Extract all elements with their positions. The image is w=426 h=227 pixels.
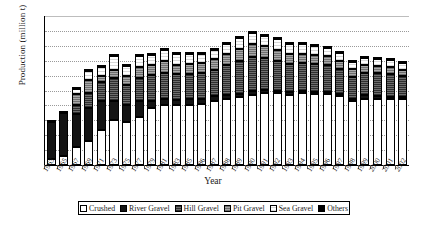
legend-item[interactable]: Hill Gravel: [175, 204, 219, 213]
stacked-bar[interactable]: [109, 54, 118, 165]
stacked-bar[interactable]: [147, 53, 156, 165]
stacked-bar[interactable]: [172, 52, 181, 165]
stacked-bar[interactable]: [398, 61, 407, 165]
bar-segment: [59, 113, 68, 155]
bar-segment: [235, 38, 244, 48]
bar-segment: [386, 74, 395, 97]
bar-segment: [323, 48, 332, 57]
bar-segment: [222, 44, 231, 54]
stacked-bar[interactable]: [197, 52, 206, 165]
legend-label: Others: [327, 204, 348, 213]
legend-label: Hill Gravel: [184, 204, 219, 213]
legend-item[interactable]: River Gravel: [120, 204, 170, 213]
stacked-bar[interactable]: [97, 65, 106, 165]
stacked-bar[interactable]: [122, 64, 131, 165]
bar-segment: [84, 108, 93, 142]
bar-segment: [147, 108, 156, 165]
stacked-bar[interactable]: [72, 87, 81, 165]
y-axis-title: Production (million t): [17, 0, 27, 121]
bar-segment: [260, 58, 269, 90]
bar-slot: [208, 16, 221, 165]
stacked-bar[interactable]: [335, 51, 344, 165]
stacked-bar[interactable]: [135, 54, 144, 166]
legend-item[interactable]: Others: [318, 204, 348, 213]
stacked-bar[interactable]: [386, 58, 395, 165]
bar-segment: [386, 99, 395, 165]
bar-segment: [197, 63, 206, 73]
legend-swatch-icon: [318, 205, 325, 212]
bar-segment: [360, 65, 369, 72]
bar-segment: [122, 76, 131, 85]
bar-segment: [298, 63, 307, 91]
legend-item[interactable]: Pit Gravel: [224, 204, 265, 213]
bar-slot: [120, 16, 133, 165]
bar-slot: [334, 16, 347, 165]
stacked-bar[interactable]: [222, 42, 231, 165]
stacked-bar[interactable]: [248, 31, 257, 165]
bar-slot: [258, 16, 271, 165]
stacked-bar[interactable]: [260, 34, 269, 165]
bar-segment: [273, 39, 282, 49]
stacked-bar[interactable]: [285, 42, 294, 165]
bar-segment: [135, 78, 144, 101]
bar-segment: [97, 101, 106, 130]
bar-segment: [335, 61, 344, 69]
bar-slot: [196, 16, 209, 165]
bar-slot: [359, 16, 372, 165]
stacked-bar[interactable]: [373, 57, 382, 165]
bar-segment: [248, 95, 257, 165]
stacked-bar[interactable]: [235, 36, 244, 165]
legend-item[interactable]: Sea Gravel: [270, 204, 313, 213]
bar-segment: [210, 70, 219, 97]
plot-area: [44, 16, 409, 166]
bar-segment: [273, 61, 282, 91]
bar-segment: [122, 85, 131, 104]
bar-segment: [160, 73, 169, 100]
bar-segment: [310, 94, 319, 165]
bar-segment: [248, 44, 257, 57]
stacked-bar[interactable]: [84, 69, 93, 165]
bar-segment: [398, 99, 407, 165]
stacked-bar[interactable]: [273, 37, 282, 165]
stacked-bar[interactable]: [323, 46, 332, 165]
stacked-bar[interactable]: [210, 48, 219, 165]
stacked-bar[interactable]: [348, 60, 357, 165]
bar-segment: [373, 66, 382, 73]
bar-segment: [260, 93, 269, 165]
bar-segment: [97, 82, 106, 101]
stacked-bar[interactable]: [298, 42, 307, 165]
bar-segment: [197, 73, 206, 99]
legend-item[interactable]: Crushed: [80, 204, 115, 213]
bar-segment: [360, 73, 369, 95]
stacked-bar[interactable]: [360, 56, 369, 165]
bar-slot: [283, 16, 296, 165]
bar-segment: [97, 67, 106, 76]
bar-segment: [160, 50, 169, 61]
bar-segment: [260, 36, 269, 46]
bar-segment: [172, 105, 181, 165]
bar-segment: [235, 97, 244, 165]
stacked-bar[interactable]: [160, 48, 169, 165]
bar-slot: [233, 16, 246, 165]
bar-segment: [84, 80, 93, 93]
bar-segment: [360, 99, 369, 165]
bar-segment: [210, 59, 219, 69]
stacked-bar[interactable]: [185, 52, 194, 165]
bar-slot: [346, 16, 359, 165]
legend-label: River Gravel: [129, 204, 170, 213]
legend-swatch-icon: [175, 205, 182, 212]
bar-slot: [308, 16, 321, 165]
bar-segment: [373, 59, 382, 66]
bar-segment: [248, 33, 257, 44]
bar-segment: [248, 57, 257, 91]
bar-segment: [72, 114, 81, 147]
bar-segment: [109, 56, 118, 70]
bar-segment: [147, 101, 156, 108]
bar-slot: [133, 16, 146, 165]
bar-segment: [298, 44, 307, 53]
bar-slot: [271, 16, 284, 165]
stacked-bar[interactable]: [310, 44, 319, 165]
bar-segment: [222, 99, 231, 165]
bar-slot: [83, 16, 96, 165]
bar-segment: [172, 74, 181, 99]
